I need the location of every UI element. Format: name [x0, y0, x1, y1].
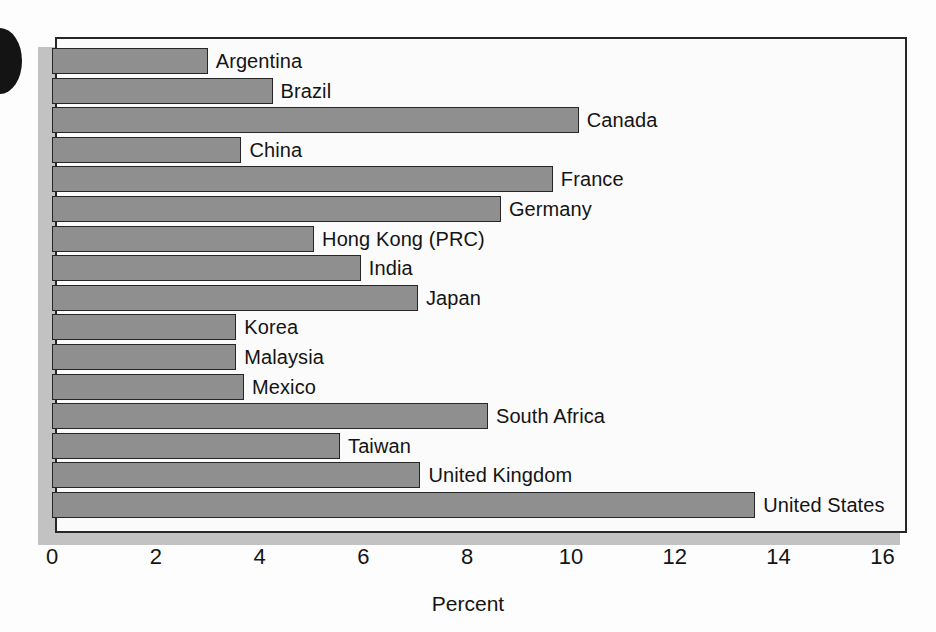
- bar-row: India: [57, 255, 905, 281]
- x-tick-label: 12: [663, 546, 687, 568]
- bar: [52, 48, 208, 74]
- bar-label: Malaysia: [244, 347, 324, 367]
- bar: [52, 314, 236, 340]
- bar-label: Argentina: [216, 51, 303, 71]
- bar: [52, 166, 553, 192]
- plot-area: ArgentinaBrazilCanadaChinaFranceGermanyH…: [57, 39, 905, 531]
- bar-label: Japan: [426, 288, 481, 308]
- chart-page: ArgentinaBrazilCanadaChinaFranceGermanyH…: [0, 0, 936, 632]
- bar-label: Hong Kong (PRC): [322, 229, 485, 249]
- bar-row: United Kingdom: [57, 462, 905, 488]
- x-tick-label: 16: [870, 546, 894, 568]
- bar-label: Korea: [244, 317, 298, 337]
- x-tick-label: 14: [766, 546, 790, 568]
- bar-row: Mexico: [57, 374, 905, 400]
- bar-row: United States: [57, 492, 905, 518]
- bar: [52, 285, 418, 311]
- bar: [52, 255, 361, 281]
- bar-label: Canada: [587, 110, 658, 130]
- bar-row: Germany: [57, 196, 905, 222]
- bar-row: Brazil: [57, 78, 905, 104]
- bar: [52, 107, 579, 133]
- bar-label: China: [249, 140, 302, 160]
- bar: [52, 403, 488, 429]
- bar-label: United States: [763, 495, 884, 515]
- x-tick-label: 8: [461, 546, 473, 568]
- bar: [52, 196, 501, 222]
- bar-label: India: [369, 258, 413, 278]
- bar: [52, 137, 241, 163]
- bar: [52, 226, 314, 252]
- x-tick-label: 10: [559, 546, 583, 568]
- x-tick-label: 0: [46, 546, 58, 568]
- x-tick-label: 4: [253, 546, 265, 568]
- bar-row: China: [57, 137, 905, 163]
- bar-row: South Africa: [57, 403, 905, 429]
- bar-label: Taiwan: [348, 436, 411, 456]
- bar: [52, 433, 340, 459]
- bar-label: United Kingdom: [428, 465, 572, 485]
- x-axis-title: Percent: [0, 592, 936, 616]
- bar-row: Japan: [57, 285, 905, 311]
- bar-row: Malaysia: [57, 344, 905, 370]
- bar-row: Taiwan: [57, 433, 905, 459]
- x-tick-label: 2: [150, 546, 162, 568]
- bar-label: France: [561, 169, 624, 189]
- bar-row: Korea: [57, 314, 905, 340]
- bar: [52, 492, 755, 518]
- bar: [52, 344, 236, 370]
- bar-row: Canada: [57, 107, 905, 133]
- plot-frame: ArgentinaBrazilCanadaChinaFranceGermanyH…: [55, 37, 907, 533]
- x-tick-label: 6: [357, 546, 369, 568]
- bar-row: Argentina: [57, 48, 905, 74]
- bar-row: Hong Kong (PRC): [57, 226, 905, 252]
- bar: [52, 78, 273, 104]
- bar: [52, 462, 420, 488]
- bar-label: Brazil: [281, 81, 332, 101]
- bar-label: South Africa: [496, 406, 605, 426]
- bar-row: France: [57, 166, 905, 192]
- bar-label: Germany: [509, 199, 592, 219]
- bar: [52, 374, 244, 400]
- decorative-dot: [0, 28, 22, 94]
- bar-label: Mexico: [252, 377, 316, 397]
